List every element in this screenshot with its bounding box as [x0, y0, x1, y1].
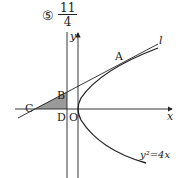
- parabola-tangent-diagram: y x l A B C D O y²=4x: [0, 0, 182, 178]
- tangent-line-l: [18, 44, 158, 118]
- point-a-label: A: [114, 50, 124, 63]
- point-d-label: D: [57, 111, 66, 124]
- line-l-label: l: [159, 34, 163, 47]
- point-c-label: C: [25, 102, 33, 115]
- curve-equation-label: y²=4x: [139, 149, 170, 160]
- y-axis-label: y: [69, 30, 77, 43]
- origin-o-label: O: [69, 111, 78, 124]
- point-b-label: B: [57, 89, 65, 102]
- x-axis-label: x: [167, 110, 174, 123]
